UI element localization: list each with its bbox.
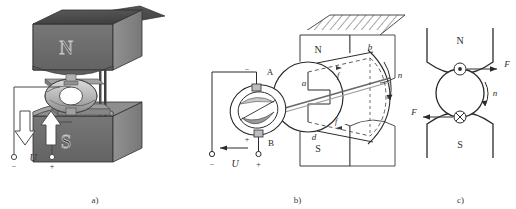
- panel-a-drawing: N S: [0, 0, 190, 185]
- panel-c-armature-circle: [436, 69, 484, 117]
- panel-a-voltage-label: U: [29, 152, 37, 163]
- panel-a-terminal-positive-label: +: [50, 162, 55, 171]
- armature-assembly: [45, 70, 110, 116]
- panel-b-north-label: N: [314, 44, 321, 55]
- panel-a-caption: a): [0, 195, 190, 205]
- panel-b-voltage-label: U: [231, 158, 239, 169]
- panel-c-force-left-label: F: [410, 107, 417, 117]
- panel-b-caption: b): [190, 195, 405, 205]
- panel-a: N S: [0, 0, 190, 209]
- panel-a-south-label: S: [61, 131, 72, 152]
- panel-b-coil-b-label: b: [368, 42, 373, 52]
- panel-c-caption: c): [405, 195, 516, 205]
- brush-a: [252, 84, 261, 91]
- panel-a-arrow-down: [15, 111, 35, 145]
- panel-a-terminal-negative-label: −: [12, 162, 17, 171]
- panel-b-brush-a-label: A: [267, 67, 274, 77]
- panel-b-terminal-negative[interactable]: [209, 151, 214, 156]
- panel-a-terminal-negative[interactable]: [11, 154, 16, 159]
- panel-c-force-right-label: F: [503, 59, 510, 69]
- conductor-current-in-icon: [454, 111, 466, 123]
- panel-b-terminal-positive[interactable]: [256, 151, 261, 156]
- panel-b-brush-b-sign: +: [245, 135, 250, 144]
- panel-b-brush-b-label: B: [268, 138, 274, 148]
- panel-b-brush-a-sign: −: [245, 65, 250, 74]
- magnet-north-block: N: [33, 6, 165, 75]
- panel-b-drawing: N S: [190, 0, 405, 185]
- brush-b: [254, 130, 263, 137]
- panel-a-terminal-positive[interactable]: [49, 154, 54, 159]
- panel-c-north-label: N: [456, 35, 463, 46]
- panel-c: N S F: [405, 0, 516, 209]
- panel-b-coil-a-label: a: [302, 78, 307, 88]
- panel-b-south-label: S: [315, 143, 321, 154]
- panel-c-south-label: S: [457, 139, 463, 150]
- panel-b-terminal-negative-label: −: [210, 160, 215, 169]
- panel-b-coil-d-label: d: [312, 132, 317, 142]
- figure-root: N S: [0, 0, 516, 209]
- panel-c-rotation-label: n: [493, 88, 498, 98]
- pole-top-hatched: [300, 15, 405, 35]
- panel-b-rotation-label: n: [398, 70, 403, 80]
- panel-b: N S: [190, 0, 405, 209]
- panel-a-north-label: N: [59, 37, 73, 58]
- conductor-current-out-icon: [454, 63, 466, 75]
- panel-c-drawing: N S F: [405, 0, 516, 185]
- panel-b-terminal-positive-label: +: [256, 160, 261, 169]
